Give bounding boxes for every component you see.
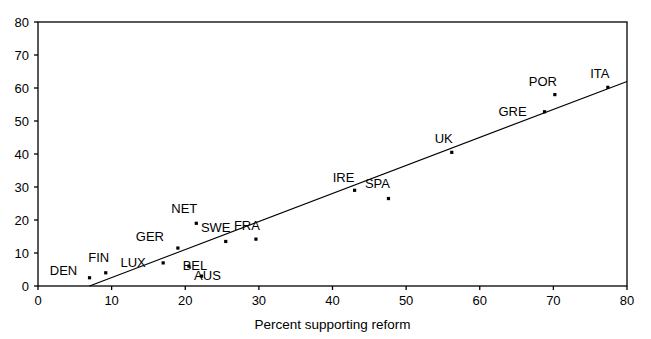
data-point-label: ITA — [590, 66, 610, 81]
data-point-label: GRE — [498, 104, 527, 119]
y-tick-label: 10 — [15, 246, 29, 261]
data-point-label: FIN — [88, 250, 109, 265]
data-point-marker[interactable] — [195, 222, 198, 225]
data-point-marker[interactable] — [176, 246, 179, 249]
data-point-label: LUX — [121, 255, 147, 270]
data-point-marker[interactable] — [162, 261, 165, 264]
x-tick-label: 60 — [473, 293, 487, 308]
data-point-label: SPA — [365, 176, 390, 191]
data-point-marker[interactable] — [553, 93, 556, 96]
data-point-label: UK — [435, 131, 453, 146]
data-point-label: DEN — [50, 263, 77, 278]
regression-line — [90, 81, 627, 286]
x-tick-label: 10 — [104, 293, 118, 308]
data-point-label: POR — [529, 74, 557, 89]
data-point-label: AUS — [194, 268, 221, 283]
x-tick-label: 40 — [325, 293, 339, 308]
data-point-marker[interactable] — [387, 197, 390, 200]
data-point-label: SWE — [201, 220, 231, 235]
x-tick-label: 20 — [178, 293, 192, 308]
plot-frame — [38, 22, 627, 286]
x-tick-label: 80 — [620, 293, 634, 308]
data-point-label: IRE — [333, 170, 355, 185]
y-tick-label: 40 — [15, 147, 29, 162]
chart-canvas: 0102030405060708001020304050607080DENFIN… — [0, 0, 651, 339]
y-tick-label: 60 — [15, 81, 29, 96]
y-tick-label: 30 — [15, 180, 29, 195]
y-tick-label: 20 — [15, 213, 29, 228]
scatter-chart-figure: 0102030405060708001020304050607080DENFIN… — [0, 0, 651, 339]
data-point-marker[interactable] — [224, 240, 227, 243]
x-tick-label: 70 — [546, 293, 560, 308]
data-point-marker[interactable] — [254, 238, 257, 241]
data-point-marker[interactable] — [450, 151, 453, 154]
y-tick-label: 70 — [15, 48, 29, 63]
x-axis-title: Percent supporting reform — [254, 317, 410, 332]
x-tick-label: 50 — [399, 293, 413, 308]
data-point-label: GER — [136, 229, 164, 244]
data-point-label: FRA — [234, 218, 260, 233]
y-tick-label: 0 — [22, 279, 29, 294]
x-tick-label: 30 — [252, 293, 266, 308]
x-tick-label: 0 — [34, 293, 41, 308]
data-point-marker[interactable] — [543, 110, 546, 113]
data-point-marker[interactable] — [88, 276, 91, 279]
data-point-marker[interactable] — [353, 189, 356, 192]
data-point-label: NET — [171, 201, 197, 216]
y-tick-label: 80 — [15, 15, 29, 30]
data-point-marker[interactable] — [104, 271, 107, 274]
y-tick-label: 50 — [15, 114, 29, 129]
data-point-marker[interactable] — [606, 86, 609, 89]
